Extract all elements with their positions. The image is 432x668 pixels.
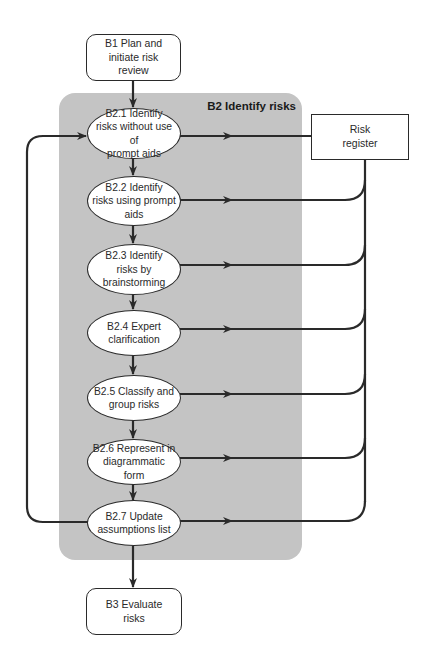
node-b2-5-label: B2.5 Classify and group risks [94,385,174,412]
node-b3-label: B3 Evaluate risks [106,598,163,625]
node-b2-3-label: B2.3 Identify risks by brainstorming [103,249,165,289]
node-b2-2: B2.2 Identify risks using prompt aids [87,176,181,226]
node-b1-plan-and-initiate: B1 Plan and initiate risk review [86,34,181,81]
node-b3-evaluate-risks: B3 Evaluate risks [86,588,182,635]
risk-register-label: Risk register [342,123,377,150]
node-b2-6: B2.6 Represent in diagrammatic form [87,439,181,485]
node-risk-register: Risk register [311,114,409,160]
node-b2-6-label: B2.6 Represent in diagrammatic form [92,442,176,482]
node-b2-5: B2.5 Classify and group risks [87,375,181,421]
node-b2-2-label: B2.2 Identify risks using prompt aids [92,181,176,221]
connector-lines [0,0,432,668]
node-b1-label: B1 Plan and initiate risk review [105,37,162,78]
node-b2-7-label: B2.7 Update assumptions list [97,510,170,537]
node-b2-4-label: B2.4 Expert clarification [107,320,161,347]
node-b2-1-label: B2.1 Identify risks without use of promp… [92,107,176,161]
flow-diagram: B2 Identify risks [0,0,432,668]
node-b2-7: B2.7 Update assumptions list [87,500,181,546]
node-b2-4: B2.4 Expert clarification [87,310,181,356]
loop-b27-to-b21 [27,136,88,522]
node-b2-3: B2.3 Identify risks by brainstorming [87,244,181,295]
node-b2-1: B2.1 Identify risks without use of promp… [87,108,181,159]
